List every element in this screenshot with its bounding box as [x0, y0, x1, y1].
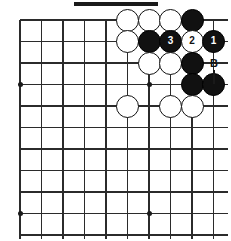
move-number: 2 [189, 36, 195, 46]
stone-white[interactable] [116, 9, 139, 32]
grid-line-horizontal [20, 127, 228, 129]
label-connector-line [213, 70, 214, 84]
move-number: 3 [168, 36, 174, 46]
grid-line-horizontal [20, 213, 228, 215]
header-rule-fragment [74, 2, 158, 6]
stone-black[interactable] [181, 73, 204, 96]
grid-line-horizontal [20, 234, 228, 236]
stone-white[interactable] [116, 95, 139, 118]
star-point [147, 211, 152, 216]
grid-line-horizontal [20, 170, 228, 172]
grid-line-vertical [105, 20, 107, 239]
stone-black-move-3[interactable]: 3 [159, 30, 182, 53]
grid-line-vertical [41, 20, 43, 239]
stone-white[interactable] [159, 52, 182, 75]
stone-black[interactable] [181, 52, 204, 75]
grid-line-vertical [84, 20, 86, 239]
stone-black[interactable] [181, 9, 204, 32]
move-number: 1 [211, 36, 217, 46]
grid-line-horizontal [20, 191, 228, 193]
stone-black[interactable] [138, 30, 161, 53]
stone-white[interactable] [159, 9, 182, 32]
stone-white[interactable] [138, 52, 161, 75]
grid-line-vertical [19, 20, 21, 239]
grid-line-horizontal [20, 148, 228, 150]
stone-white[interactable] [159, 95, 182, 118]
stone-white-move-2[interactable]: 2 [181, 30, 204, 53]
stone-black-move-1[interactable]: 1 [202, 30, 225, 53]
point-label-b: B [210, 57, 218, 69]
star-point [18, 82, 23, 87]
grid-line-vertical [62, 20, 64, 239]
star-point [18, 211, 23, 216]
star-point [147, 82, 152, 87]
stone-white[interactable] [116, 30, 139, 53]
stone-white[interactable] [138, 9, 161, 32]
go-board-diagram: 321 AB [0, 0, 231, 241]
stone-white[interactable] [181, 95, 204, 118]
